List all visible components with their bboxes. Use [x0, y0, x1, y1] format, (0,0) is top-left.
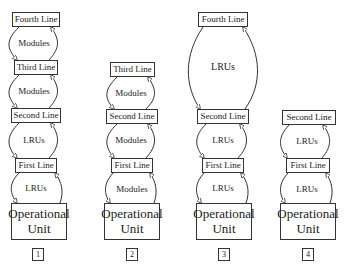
node-operational-unit: Operational Unit: [280, 203, 336, 240]
operational-unit-line2: Unit: [27, 222, 50, 237]
edge-label-lrus: LRUs: [11, 183, 61, 193]
edge-label-lrus: LRUs: [9, 135, 59, 145]
node-operational-unit: Operational Unit: [196, 203, 252, 240]
operational-unit-line2: Unit: [120, 222, 143, 237]
edge-label-lrus: LRUs: [198, 61, 248, 72]
node-first-line: First Line: [111, 158, 153, 173]
operational-unit-line1: Operational: [193, 207, 254, 222]
operational-unit-line1: Operational: [101, 207, 162, 222]
edge-label-modules: Modules: [9, 86, 59, 96]
node-third-line: Third Line: [110, 62, 155, 77]
edge-label-modules: Modules: [106, 88, 156, 98]
node-second-line: Second Line: [106, 109, 158, 124]
node-second-line: Second Line: [282, 110, 336, 125]
diagram-number-label: 1: [32, 248, 44, 261]
operational-unit-line1: Operational: [8, 207, 69, 222]
node-first-line: First Line: [15, 158, 57, 173]
node-fourth-line: Fourth Line: [12, 12, 60, 27]
diagram-number-label: 2: [126, 248, 138, 261]
edge-label-modules: Modules: [9, 38, 59, 48]
operational-unit-line1: Operational: [277, 207, 338, 222]
node-first-line: First Line: [202, 158, 244, 173]
edge-label-modules: Modules: [107, 184, 157, 194]
node-first-line: First Line: [286, 158, 330, 173]
edge-label-modules: Modules: [106, 135, 156, 145]
node-second-line: Second Line: [197, 109, 249, 124]
operational-unit-line2: Unit: [296, 222, 319, 237]
edge-label-lrus: LRUs: [198, 183, 248, 193]
diagram-number-label: 3: [218, 248, 230, 261]
node-operational-unit: Operational Unit: [11, 203, 67, 240]
node-second-line: Second Line: [11, 108, 61, 123]
edge-label-lrus: LRUs: [198, 135, 248, 145]
diagram-number-label: 4: [302, 248, 314, 261]
node-fourth-line: Fourth Line: [198, 12, 248, 27]
node-third-line: Third Line: [14, 60, 58, 75]
edge-label-lrus: LRUs: [282, 136, 332, 146]
operational-unit-line2: Unit: [212, 222, 235, 237]
node-operational-unit: Operational Unit: [104, 203, 160, 240]
edge-label-lrus: LRUs: [282, 184, 332, 194]
